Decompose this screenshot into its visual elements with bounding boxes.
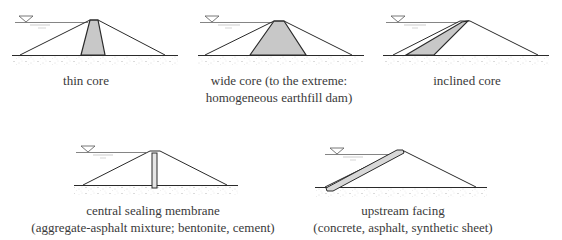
core-fill bbox=[406, 21, 468, 55]
caption-line: (concrete, asphalt, synthetic sheet) bbox=[313, 219, 492, 236]
panel-central-sealing-membrane bbox=[74, 146, 238, 195]
ground-hatching bbox=[315, 188, 487, 197]
ground-hatching bbox=[12, 56, 178, 65]
panel-wide-core bbox=[198, 16, 364, 65]
upstream-facing-layer bbox=[326, 150, 404, 191]
water-level-icon bbox=[386, 16, 458, 28]
panel-inclined-core bbox=[383, 16, 549, 65]
caption-thin-core: thin core bbox=[63, 72, 109, 89]
core-fill bbox=[81, 20, 105, 55]
caption-inclined-core: inclined core bbox=[433, 72, 501, 89]
panel-upstream-facing bbox=[315, 148, 487, 197]
ground-hatching bbox=[198, 56, 364, 65]
caption-line: central sealing membrane bbox=[31, 202, 274, 219]
water-level-icon bbox=[200, 16, 272, 28]
ground-hatching bbox=[383, 56, 549, 65]
caption-line: wide core (to the extreme: bbox=[206, 72, 353, 89]
caption-line: thin core bbox=[63, 72, 109, 89]
panel-thin-core bbox=[12, 16, 178, 65]
caption-line: (aggregate-asphalt mixture; bentonite, c… bbox=[31, 219, 274, 236]
sealing-membrane bbox=[152, 153, 157, 188]
caption-wide-core: wide core (to the extreme: homogeneous e… bbox=[206, 72, 353, 106]
water-level-icon bbox=[76, 146, 146, 158]
caption-line: upstream facing bbox=[313, 202, 492, 219]
caption-upstream-facing: upstream facing (concrete, asphalt, synt… bbox=[313, 202, 492, 236]
caption-line: inclined core bbox=[433, 72, 501, 89]
core-fill bbox=[250, 21, 306, 55]
caption-central-sealing-membrane: central sealing membrane (aggregate-asph… bbox=[31, 202, 274, 236]
caption-line: homogeneous earthfill dam) bbox=[206, 89, 353, 106]
